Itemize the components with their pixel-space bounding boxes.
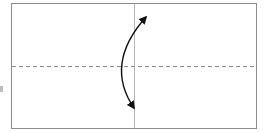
- fold-diagram: [0, 0, 264, 132]
- cropped-edge-mark: [0, 86, 3, 92]
- fold-diagram-canvas: [0, 0, 264, 132]
